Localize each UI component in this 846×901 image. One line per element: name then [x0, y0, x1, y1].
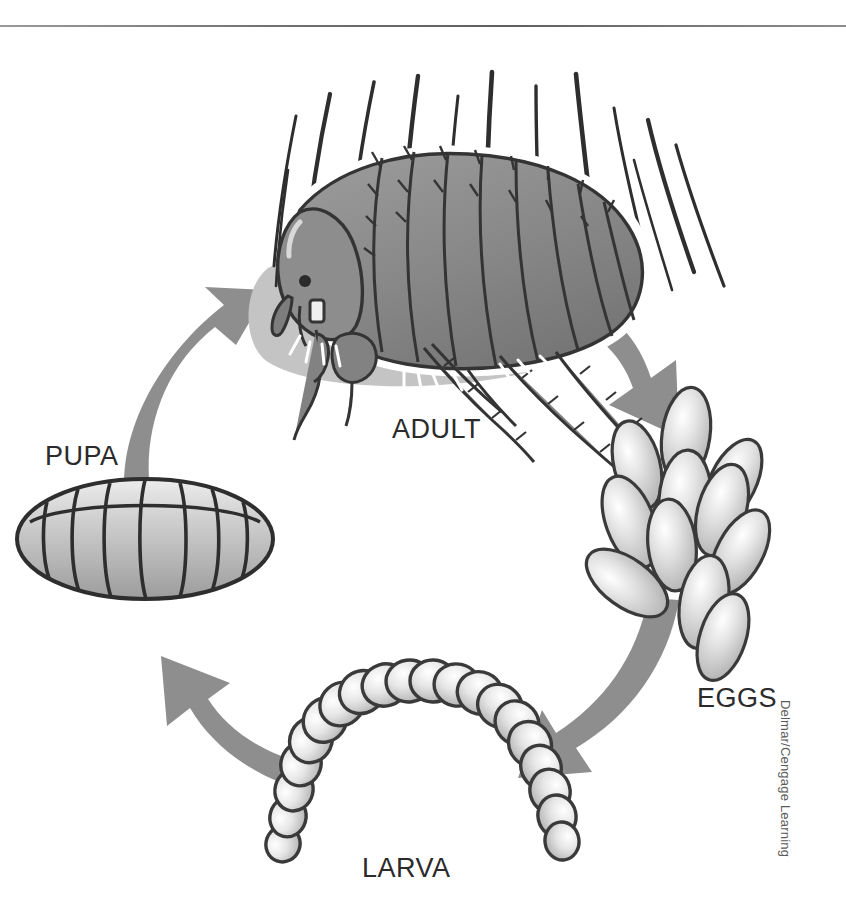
flea-life-cycle-illustration — [0, 0, 846, 901]
stage-label-pupa: PUPA — [45, 441, 119, 472]
publisher-credit: Delmar/Cengage Learning — [778, 700, 793, 857]
pupa-body — [17, 479, 273, 599]
arrow-pupa-to-adult — [124, 287, 268, 507]
figure-canvas: ADULT EGGS LARVA PUPA Delmar/Cengage Lea… — [0, 0, 846, 901]
stage-label-adult: ADULT — [392, 414, 481, 445]
stage-label-larva: LARVA — [362, 853, 451, 884]
stage-label-eggs: EGGS — [697, 683, 777, 714]
flea-eye — [299, 275, 311, 287]
pupa-group — [17, 479, 273, 599]
eggs-cluster — [575, 384, 782, 687]
larva-group — [261, 657, 582, 867]
